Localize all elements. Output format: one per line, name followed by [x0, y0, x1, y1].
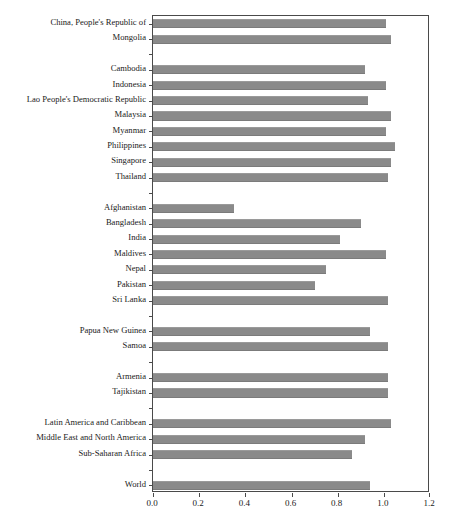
spacer-row	[153, 462, 428, 477]
bar	[153, 250, 386, 259]
x-axis-tick-label: 1.2	[409, 498, 449, 508]
bar	[153, 235, 340, 244]
y-axis-tick	[149, 362, 153, 363]
y-axis-tick	[149, 408, 153, 409]
x-axis-tick-label: 0.2	[178, 498, 218, 508]
bar-row	[153, 62, 428, 77]
x-axis-tick	[384, 493, 385, 497]
y-axis-label: Philippines	[0, 138, 146, 153]
y-axis-label: Pakistan	[0, 277, 146, 292]
x-axis-tick	[199, 493, 200, 497]
y-axis-label: World	[0, 477, 146, 492]
y-axis-label: Armenia	[0, 369, 146, 384]
bar-row	[153, 447, 428, 462]
x-axis-tick-label: 0.0	[132, 498, 172, 508]
x-axis-tick-label: 1.0	[363, 498, 403, 508]
y-axis-label: Myanmar	[0, 123, 146, 138]
x-axis-tick-label: 0.4	[224, 498, 264, 508]
bar-row	[153, 231, 428, 246]
bar	[153, 204, 234, 213]
y-axis-label: Afghanistan	[0, 200, 146, 215]
bar	[153, 373, 388, 382]
y-axis-tick	[149, 54, 153, 55]
bar	[153, 19, 386, 28]
bar	[153, 111, 391, 120]
y-axis-label: Lao People's Democratic Republic	[0, 92, 146, 107]
bar-row	[153, 216, 428, 231]
y-axis-label: Singapore	[0, 153, 146, 168]
bar-row	[153, 278, 428, 293]
bar	[153, 327, 370, 336]
bar-row	[153, 31, 428, 46]
bar-row	[153, 370, 428, 385]
spacer-row	[153, 355, 428, 370]
bar-row	[153, 201, 428, 216]
y-axis-label: Malaysia	[0, 107, 146, 122]
bar	[153, 481, 370, 490]
y-axis-label: Samoa	[0, 338, 146, 353]
bar-row	[153, 262, 428, 277]
y-axis-label: India	[0, 230, 146, 245]
y-axis-label: Thailand	[0, 169, 146, 184]
bar	[153, 127, 386, 136]
bar-row	[153, 416, 428, 431]
bar	[153, 435, 365, 444]
y-axis-label: Middle East and North America	[0, 430, 146, 445]
bar-row	[153, 139, 428, 154]
y-axis-label: Tajikistan	[0, 384, 146, 399]
plot-area	[152, 15, 429, 492]
bar-row	[153, 339, 428, 354]
bar-row	[153, 93, 428, 108]
y-axis-label: Maldives	[0, 246, 146, 261]
spacer-row	[153, 308, 428, 323]
y-axis-tick	[149, 193, 153, 194]
bar	[153, 296, 388, 305]
bar	[153, 219, 361, 228]
bar-row	[153, 324, 428, 339]
x-axis-tick	[429, 493, 430, 497]
bar-row	[153, 431, 428, 446]
chart-title-partial	[0, 0, 450, 4]
bar-row	[153, 154, 428, 169]
spacer-row	[153, 185, 428, 200]
bar-row	[153, 385, 428, 400]
y-axis-label: Sri Lanka	[0, 292, 146, 307]
y-axis-tick	[149, 316, 153, 317]
y-axis-label: Cambodia	[0, 61, 146, 76]
bar	[153, 158, 391, 167]
bar	[153, 419, 391, 428]
bar-chart: China, People's Republic ofMongoliaCambo…	[0, 0, 450, 519]
y-axis-label: Latin America and Caribbean	[0, 415, 146, 430]
y-axis-label: China, People's Republic of	[0, 15, 146, 30]
bar	[153, 142, 395, 151]
bar-row	[153, 16, 428, 31]
bar	[153, 96, 368, 105]
x-axis-tick-label: 0.8	[317, 498, 357, 508]
y-axis-label: Papua New Guinea	[0, 323, 146, 338]
bar	[153, 81, 386, 90]
bar	[153, 450, 352, 459]
bar	[153, 35, 391, 44]
bar	[153, 342, 388, 351]
y-axis-label: Indonesia	[0, 77, 146, 92]
x-axis-tick	[245, 493, 246, 497]
x-axis-tick	[153, 493, 154, 497]
spacer-row	[153, 47, 428, 62]
y-axis-label: Mongolia	[0, 30, 146, 45]
y-axis-label: Sub-Saharan Africa	[0, 446, 146, 461]
bar-row	[153, 108, 428, 123]
x-axis-tick-label: 0.6	[271, 498, 311, 508]
y-axis-label: Nepal	[0, 261, 146, 276]
bar	[153, 265, 326, 274]
bar	[153, 281, 315, 290]
y-axis-tick	[149, 470, 153, 471]
bar	[153, 173, 388, 182]
bar-row	[153, 247, 428, 262]
bar-row	[153, 478, 428, 493]
bar-row	[153, 78, 428, 93]
bar-row	[153, 293, 428, 308]
x-axis-tick	[292, 493, 293, 497]
bar	[153, 388, 388, 397]
y-axis-label: Bangladesh	[0, 215, 146, 230]
bar-row	[153, 124, 428, 139]
